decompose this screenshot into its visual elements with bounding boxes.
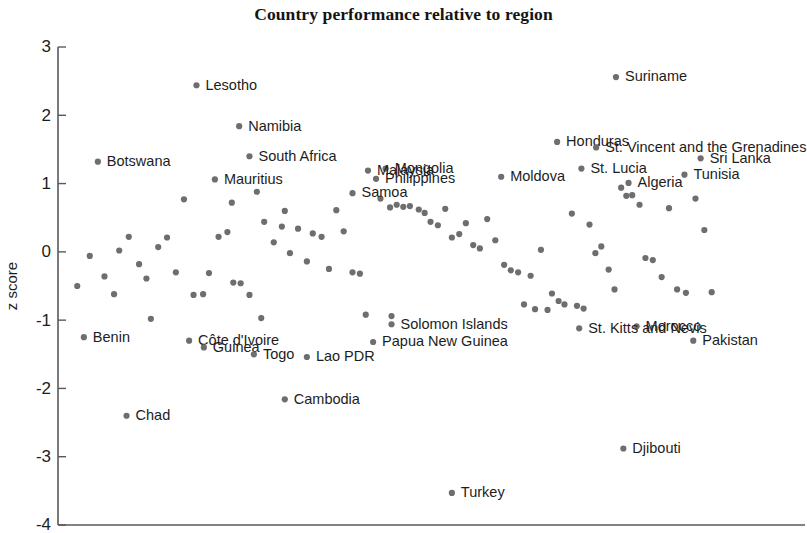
data-point <box>254 189 260 195</box>
data-point <box>477 245 483 251</box>
data-point <box>148 316 154 322</box>
data-point-label: Suriname <box>625 68 687 84</box>
data-point <box>593 144 599 150</box>
data-point <box>349 269 355 275</box>
data-point <box>618 185 624 191</box>
data-point <box>581 305 587 311</box>
data-point <box>212 176 218 182</box>
data-point <box>620 445 626 451</box>
data-point <box>508 267 514 273</box>
data-point <box>164 234 170 240</box>
data-point-label: South Africa <box>258 148 337 164</box>
data-point <box>659 274 665 280</box>
data-point <box>569 211 575 217</box>
data-point <box>470 242 476 248</box>
data-point-label: Namibia <box>248 118 302 134</box>
data-point <box>544 307 550 313</box>
y-tick-label: -1 <box>36 311 51 330</box>
data-point <box>370 339 376 345</box>
data-point <box>181 196 187 202</box>
data-point <box>442 206 448 212</box>
data-point <box>304 354 310 360</box>
y-tick-label: 3 <box>42 37 51 56</box>
data-point <box>373 176 379 182</box>
data-point <box>427 219 433 225</box>
y-tick-label: -4 <box>36 515 51 533</box>
data-point-label: Togo <box>263 346 294 362</box>
data-point <box>357 271 363 277</box>
data-point <box>666 205 672 211</box>
data-point <box>304 258 310 264</box>
data-point-label: Lesotho <box>205 77 257 93</box>
data-point-label: Papua New Guinea <box>382 333 509 349</box>
data-point-label: Solomon Islands <box>401 316 508 332</box>
data-point <box>229 200 235 206</box>
data-point <box>333 207 339 213</box>
data-point <box>190 292 196 298</box>
y-tick-label: -2 <box>36 379 51 398</box>
data-point <box>484 216 490 222</box>
data-point <box>623 193 629 199</box>
data-point <box>279 223 285 229</box>
data-point <box>116 247 122 253</box>
data-point <box>126 234 132 240</box>
data-point <box>201 344 207 350</box>
data-point-label: Pakistan <box>702 332 758 348</box>
data-point <box>87 253 93 259</box>
data-point <box>683 290 689 296</box>
data-point <box>282 208 288 214</box>
data-point <box>613 74 619 80</box>
data-point <box>574 303 580 309</box>
data-point <box>200 291 206 297</box>
data-point <box>400 204 406 210</box>
data-point <box>388 321 394 327</box>
data-point <box>95 159 101 165</box>
data-point <box>363 312 369 318</box>
data-point <box>449 490 455 496</box>
data-point <box>74 283 80 289</box>
y-tick-label: 1 <box>42 174 51 193</box>
data-point <box>578 165 584 171</box>
data-point <box>435 222 441 228</box>
data-point <box>261 219 267 225</box>
data-point <box>155 244 161 250</box>
data-point <box>611 286 617 292</box>
data-point <box>224 229 230 235</box>
data-point <box>698 155 704 161</box>
data-point <box>287 250 293 256</box>
data-point <box>629 192 635 198</box>
data-point-label: Turkey <box>461 484 506 500</box>
data-point <box>349 190 355 196</box>
data-point <box>295 226 301 232</box>
data-point-label: St. Vincent and the Grenadines <box>605 139 806 155</box>
data-point-label: St. Kitts and Nevis <box>588 320 706 336</box>
data-point <box>555 298 561 304</box>
data-point <box>193 82 199 88</box>
data-point <box>123 413 129 419</box>
data-point-label: Lao PDR <box>316 348 375 364</box>
data-point-label: Sri Lanka <box>710 150 772 166</box>
data-point <box>136 261 142 267</box>
data-point <box>246 153 252 159</box>
data-point <box>407 203 413 209</box>
data-point <box>215 234 221 240</box>
data-point <box>271 239 277 245</box>
data-point <box>310 230 316 236</box>
data-point-label: Tunisia <box>693 166 740 182</box>
data-point <box>282 396 288 402</box>
data-point <box>236 123 242 129</box>
data-point <box>528 273 534 279</box>
data-point-label: Samoa <box>362 184 409 200</box>
data-point-label: Moldova <box>510 168 566 184</box>
data-point <box>598 243 604 249</box>
data-point <box>521 301 527 307</box>
data-point <box>625 180 631 186</box>
data-point <box>186 338 192 344</box>
data-point <box>456 231 462 237</box>
data-point <box>387 204 393 210</box>
data-point <box>561 301 567 307</box>
data-point-label: Algeria <box>638 174 684 190</box>
data-point <box>549 290 555 296</box>
data-point <box>492 237 498 243</box>
data-point <box>690 338 696 344</box>
